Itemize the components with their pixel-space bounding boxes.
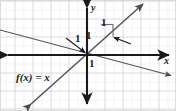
coordinate-plane-svg	[0, 0, 176, 111]
unit-label-pointer: 1	[75, 33, 81, 44]
slope-run-label: 1	[101, 17, 107, 28]
graph-figure: f(x) = x y x 1 1 1 1	[0, 0, 176, 111]
unit-label-below-origin: 1	[89, 58, 95, 69]
slope-rise-label: 1	[86, 30, 92, 41]
function-label: f(x) = x	[16, 72, 50, 83]
x-axis-label: x	[164, 56, 169, 66]
y-axis-label: y	[91, 3, 95, 13]
